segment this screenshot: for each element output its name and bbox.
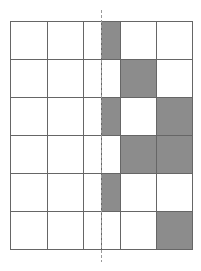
shaded-cell	[156, 211, 192, 249]
shaded-cell	[101, 21, 120, 59]
shaded-cell	[156, 97, 192, 135]
shaded-cell	[101, 97, 120, 135]
shaded-cell	[101, 173, 120, 211]
shaded-cell	[120, 59, 156, 97]
shaded-cell	[120, 135, 156, 173]
shaded-grid-diagram	[0, 0, 201, 271]
shaded-cell	[156, 135, 192, 173]
